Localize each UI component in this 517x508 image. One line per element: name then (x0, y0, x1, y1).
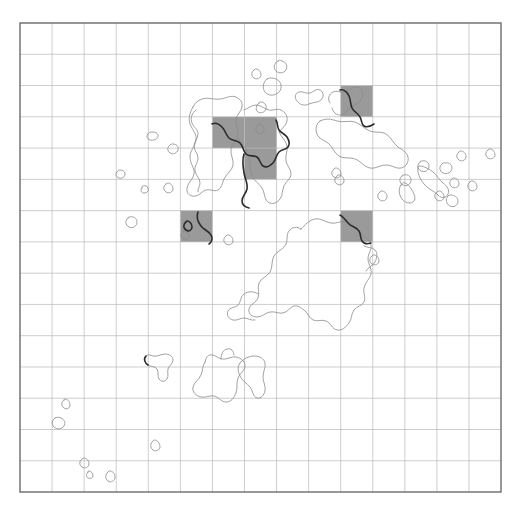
map-figure (0, 0, 517, 508)
figure-canvas (0, 0, 517, 508)
highlighted-cell[interactable] (341, 211, 373, 242)
highlighted-cell[interactable] (180, 211, 212, 242)
plot-area-background (20, 23, 501, 492)
highlighted-cell[interactable] (244, 117, 276, 148)
